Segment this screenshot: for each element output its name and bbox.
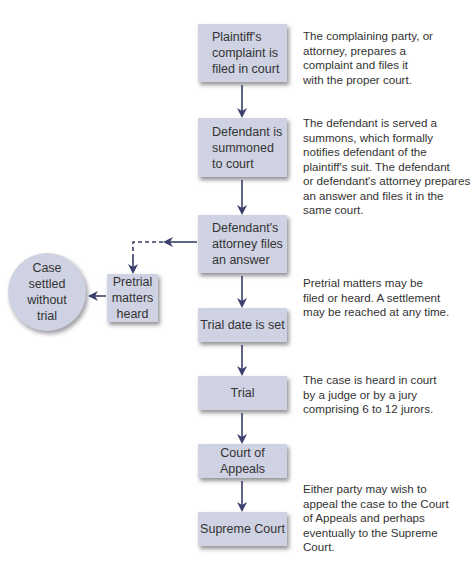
step-label: Trial date is set [200, 317, 284, 333]
step-label: Defendant is summoned to court [212, 124, 282, 172]
step-defendant-summoned: Defendant is summoned to court [198, 118, 287, 177]
step-supreme-court: Supreme Court [198, 512, 287, 546]
description-complaint: The complaining party, or attorney, prep… [303, 29, 433, 87]
step-complaint-filed: Plaintiff's complaint is filed in court [198, 24, 287, 82]
description-trial: The case is heard in court by a judge or… [303, 373, 436, 417]
description-text: The defendant is served a summons, which… [303, 116, 470, 216]
step-trial: Trial [198, 376, 287, 410]
description-pretrial: Pretrial matters may be filed or heard. … [303, 276, 449, 320]
description-text: Either party may wish to appeal the case… [303, 482, 449, 553]
step-label: Supreme Court [200, 521, 285, 537]
outcome-case-settled: Case settled without trial [8, 253, 86, 331]
step-answer-filed: Defendant's attorney files an answer [198, 215, 287, 273]
dashed-connector [133, 242, 163, 262]
description-text: The case is heard in court by a judge or… [303, 373, 436, 415]
step-label: Trial [231, 385, 255, 401]
step-label: Pretrial matters heard [112, 274, 154, 322]
description-text: Pretrial matters may be filed or heard. … [303, 276, 449, 318]
step-label: Plaintiff's complaint is filed in court [212, 29, 279, 77]
description-appeals: Either party may wish to appeal the case… [303, 482, 449, 555]
step-trial-date-set: Trial date is set [198, 308, 287, 342]
step-pretrial-matters: Pretrial matters heard [107, 274, 158, 322]
outcome-label: Case settled without trial [27, 260, 67, 324]
step-label: Defendant's attorney files an answer [212, 220, 283, 268]
description-summons: The defendant is served a summons, which… [303, 116, 470, 218]
description-text: The complaining party, or attorney, prep… [303, 29, 433, 86]
step-label: Court of Appeals [198, 445, 287, 477]
step-court-of-appeals: Court of Appeals [198, 444, 287, 478]
